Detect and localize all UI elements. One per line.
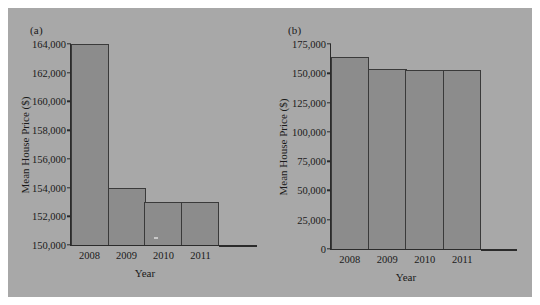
image-artifact-speck xyxy=(154,237,158,239)
y-axis-title-b: Mean House Price ($) xyxy=(277,98,289,195)
x-tick-label-b: 2010 xyxy=(414,254,435,265)
plot-area-b: Mean House Price ($) 0 25,000 50,000 75,… xyxy=(330,44,481,250)
x-tick-label-a: 2011 xyxy=(190,250,211,261)
y-tick-label-b: 175,000 xyxy=(292,39,326,50)
y-tick-label-b: 50,000 xyxy=(297,185,326,196)
y-tick-label-a: 154,000 xyxy=(32,182,66,193)
x-tick-label-b: 2008 xyxy=(339,254,360,265)
y-tick-label-a: 152,000 xyxy=(32,211,66,222)
y-tick-label-b: 75,000 xyxy=(297,156,326,167)
bar-group-b xyxy=(331,44,481,249)
y-tick-label-a: 164,000 xyxy=(32,39,66,50)
y-tick-label-b: 25,000 xyxy=(297,214,326,225)
x-axis-extension-a xyxy=(219,245,257,247)
x-tick-label-b: 2009 xyxy=(377,254,398,265)
figure-container: (a) Mean House Price ($) 150,000 152,000… xyxy=(8,8,532,297)
panel-label-b: (b) xyxy=(288,24,301,36)
y-tick-label-a: 150,000 xyxy=(32,240,66,251)
y-tick-label-a: 156,000 xyxy=(32,153,66,164)
y-tick-label-a: 158,000 xyxy=(32,125,66,136)
bar-2011-a[interactable] xyxy=(181,202,219,245)
bar-2009-a[interactable] xyxy=(108,188,146,245)
x-axis-title-b: Year xyxy=(396,271,416,283)
bar-2009-b[interactable] xyxy=(368,69,406,249)
y-tick-label-b: 100,000 xyxy=(292,126,326,137)
bar-2008-b[interactable] xyxy=(331,57,369,249)
panel-label-a: (a) xyxy=(30,24,43,36)
bar-2010-b[interactable] xyxy=(405,70,443,249)
bar-2010-a[interactable] xyxy=(144,202,182,245)
plot-area-a: Mean House Price ($) 150,000 152,000 154… xyxy=(70,44,219,246)
chart-panel-b: (b) Mean House Price ($) 0 25,000 50,000… xyxy=(270,8,532,297)
x-tick-label-b: 2011 xyxy=(452,254,473,265)
bar-2011-b[interactable] xyxy=(443,70,481,249)
bar-group-a xyxy=(71,44,219,245)
chart-panel-a: (a) Mean House Price ($) 150,000 152,000… xyxy=(8,8,270,297)
x-tick-label-a: 2008 xyxy=(79,250,100,261)
x-tick-label-a: 2009 xyxy=(116,250,137,261)
y-tick-label-a: 160,000 xyxy=(32,96,66,107)
x-tick-label-a: 2010 xyxy=(153,250,174,261)
y-tick-label-a: 162,000 xyxy=(32,67,66,78)
x-axis-title-a: Year xyxy=(135,267,155,279)
y-tick-label-b: 0 xyxy=(321,244,326,255)
y-tick-label-b: 150,000 xyxy=(292,68,326,79)
x-axis-extension-b xyxy=(481,249,517,251)
bar-2008-a[interactable] xyxy=(71,44,109,245)
y-tick-label-b: 125,000 xyxy=(292,97,326,108)
y-axis-title-a: Mean House Price ($) xyxy=(19,96,31,193)
